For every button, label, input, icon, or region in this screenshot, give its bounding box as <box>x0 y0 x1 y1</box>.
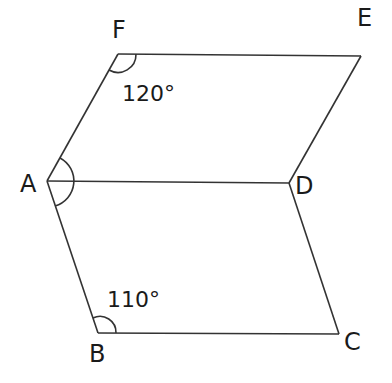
angle-arc-A <box>55 158 74 206</box>
edge-AB <box>47 181 98 333</box>
vertex-label-A: A <box>20 170 37 198</box>
angle-label-B: 110° <box>107 287 160 312</box>
edge-AD <box>47 181 289 183</box>
geometry-diagram: F E A D B C 120° 110° <box>0 0 392 383</box>
vertex-label-C: C <box>344 328 361 356</box>
vertex-label-F: F <box>112 16 126 44</box>
edge-ED <box>289 56 361 183</box>
edge-AF <box>47 54 118 181</box>
edge-CD <box>289 183 339 334</box>
angle-label-F: 120° <box>122 81 175 106</box>
vertex-label-E: E <box>357 4 372 32</box>
edge-BC <box>98 333 339 334</box>
vertex-label-B: B <box>89 340 105 368</box>
edge-FE <box>118 54 361 56</box>
vertex-label-D: D <box>295 172 313 200</box>
